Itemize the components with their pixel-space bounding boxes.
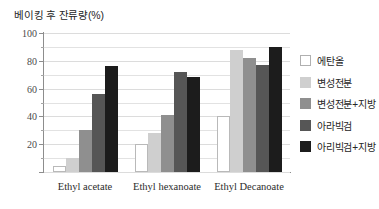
y-axis-tick — [39, 144, 44, 145]
bar — [256, 65, 269, 172]
bar — [53, 166, 66, 172]
y-axis-tick-label: 60 — [27, 83, 37, 94]
bar — [92, 94, 105, 172]
bar — [161, 115, 174, 172]
y-axis-tick-label: 80 — [27, 55, 37, 66]
y-axis-tick — [41, 103, 44, 104]
legend-label: 아리빅검+지방 — [317, 139, 375, 154]
legend-swatch — [300, 141, 311, 152]
bar — [66, 158, 79, 172]
bar — [230, 50, 243, 172]
y-axis-tick — [39, 172, 44, 173]
bar-group — [53, 33, 118, 172]
legend-swatch — [300, 55, 311, 66]
x-axis-tick-label: Ethyl hexanoate — [133, 181, 201, 192]
bar — [187, 77, 200, 172]
bar — [105, 66, 118, 172]
legend-label: 변성전분 — [317, 75, 352, 90]
legend-label: 아라빅검 — [317, 118, 352, 133]
legend-swatch — [300, 77, 311, 88]
legend-item: 변성전분+지방 — [300, 93, 375, 115]
gridline-major — [44, 172, 290, 173]
bar — [135, 144, 148, 172]
y-axis-tick — [39, 116, 44, 117]
y-axis-tick-label: 40 — [27, 111, 37, 122]
legend-label: 에탄올 — [317, 53, 343, 68]
bar — [217, 116, 230, 172]
y-axis-tick — [41, 47, 44, 48]
bar — [148, 133, 161, 172]
bar-group — [135, 33, 200, 172]
legend-item: 변성전분 — [300, 72, 375, 94]
y-axis-tick — [41, 130, 44, 131]
y-axis-tick — [39, 89, 44, 90]
bar — [174, 72, 187, 172]
legend-item: 에탄올 — [300, 50, 375, 72]
bar-chart: 베이킹 후 잔류량(%) 20406080100 에탄올변성전분변성전분+지방아… — [0, 0, 379, 209]
plot-area: 20406080100 — [44, 33, 290, 172]
bar-group — [217, 33, 282, 172]
chart-legend: 에탄올변성전분변성전분+지방아라빅검아리빅검+지방 — [300, 50, 375, 158]
x-axis-tick-label: Ethyl Decanoate — [214, 181, 284, 192]
chart-title: 베이킹 후 잔류량(%) — [14, 7, 104, 22]
bar — [269, 47, 282, 172]
y-axis-tick — [41, 158, 44, 159]
y-axis-tick-label: 100 — [22, 28, 37, 39]
legend-swatch — [300, 98, 311, 109]
legend-swatch — [300, 120, 311, 131]
y-axis-tick — [39, 61, 44, 62]
y-axis-tick — [39, 33, 44, 34]
legend-item: 아라빅검 — [300, 115, 375, 137]
bar — [79, 130, 92, 172]
bar — [243, 58, 256, 172]
y-axis-tick — [41, 75, 44, 76]
y-axis-tick-label: 20 — [27, 139, 37, 150]
legend-item: 아리빅검+지방 — [300, 136, 375, 158]
x-axis-tick-label: Ethyl acetate — [58, 181, 113, 192]
legend-label: 변성전분+지방 — [317, 96, 375, 111]
